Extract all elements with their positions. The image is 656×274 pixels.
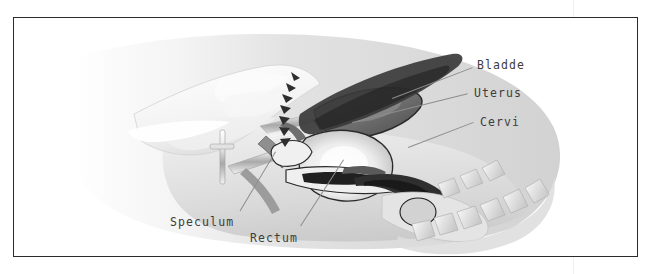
anatomical-illustration (14, 18, 639, 258)
label-bladder: Bladde (477, 59, 525, 71)
label-cervix: Cervi (480, 116, 520, 128)
figure-page: Bladde Uterus Cervi Speculum Rectum (0, 0, 656, 274)
label-uterus: Uterus (474, 87, 522, 99)
label-speculum: Speculum (170, 216, 234, 228)
illustration-svg (14, 18, 639, 258)
figure-frame (13, 17, 638, 257)
label-rectum: Rectum (250, 232, 298, 244)
